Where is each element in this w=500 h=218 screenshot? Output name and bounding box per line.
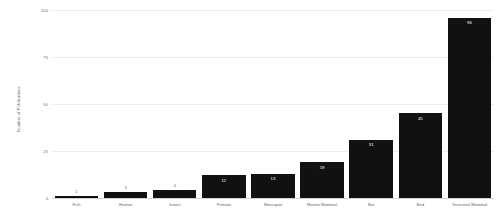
- bar-value-label: 13: [251, 176, 294, 181]
- y-tick-label: 50: [43, 102, 48, 107]
- bar-value-label: 45: [399, 116, 442, 121]
- bar[interactable]: [55, 196, 98, 198]
- bar-group[interactable]: 1Fish: [55, 10, 98, 198]
- bar[interactable]: [349, 140, 392, 198]
- plot-area: 0255075100 1Fish3Human4Insect12Primate13…: [52, 10, 494, 198]
- y-tick-label: 0: [46, 196, 48, 201]
- bar[interactable]: [399, 113, 442, 198]
- bar-group[interactable]: 96Terrestrial Mammal: [448, 10, 491, 198]
- bar-value-label: 12: [202, 178, 245, 183]
- bar-value-label: 31: [349, 142, 392, 147]
- bar-group[interactable]: 45Bird: [399, 10, 442, 198]
- bar[interactable]: [448, 18, 491, 198]
- bar-group[interactable]: 31Bat: [349, 10, 392, 198]
- gridline-0: 0: [52, 198, 494, 199]
- y-tick-label: 25: [43, 149, 48, 154]
- bar-value-label: 3: [104, 185, 147, 190]
- y-tick-label: 100: [41, 8, 48, 13]
- bar-group[interactable]: 3Human: [104, 10, 147, 198]
- bar-value-label: 96: [448, 20, 491, 25]
- y-axis-title: Number of Publications: [10, 0, 26, 218]
- y-tick-label: 75: [43, 55, 48, 60]
- bar-value-label: 4: [153, 183, 196, 188]
- bar-group[interactable]: 4Insect: [153, 10, 196, 198]
- bar-group[interactable]: 12Primate: [202, 10, 245, 198]
- bar[interactable]: [153, 190, 196, 198]
- bar-value-label: 19: [300, 165, 343, 170]
- bar[interactable]: [104, 192, 147, 198]
- x-tick-label: Terrestrial Mammal: [440, 202, 499, 207]
- bar-group[interactable]: 13Marsupial: [251, 10, 294, 198]
- bar-value-label: 1: [55, 189, 98, 194]
- bars: 1Fish3Human4Insect12Primate13Marsupial19…: [52, 10, 494, 198]
- bar-group[interactable]: 19Marine Mammal: [300, 10, 343, 198]
- bar-chart: Number of Publications 0255075100 1Fish3…: [0, 0, 500, 218]
